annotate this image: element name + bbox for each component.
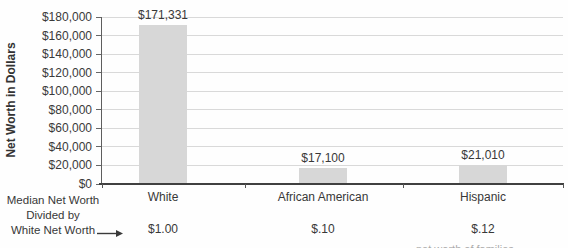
y-axis-tick-label: $80,000	[16, 103, 92, 117]
y-axis-tick-label: $160,000	[16, 29, 92, 43]
x-axis-tick	[563, 184, 564, 188]
bar-value-label: $21,010	[438, 148, 528, 162]
ratio-value: $.12	[438, 222, 528, 236]
x-axis-tick	[245, 184, 246, 188]
y-axis-line	[101, 17, 102, 184]
y-axis-tick-label: $20,000	[16, 158, 92, 172]
x-axis-baseline	[99, 183, 564, 185]
bar	[139, 25, 187, 184]
y-axis-tick-label: $180,000	[16, 10, 92, 24]
ratio-value: $.10	[278, 222, 368, 236]
category-label: White	[101, 190, 225, 204]
bar	[459, 165, 507, 184]
y-axis-tick-label: $120,000	[16, 66, 92, 80]
ratio-annotation-line1: Median Net Worth	[2, 193, 104, 208]
category-label: African American	[261, 190, 385, 204]
bar-value-label: $17,100	[278, 151, 368, 165]
y-axis-tick-label: $0	[16, 177, 92, 191]
x-axis-tick	[403, 184, 404, 188]
category-label: Hispanic	[421, 190, 545, 204]
y-axis-tick-label: $40,000	[16, 140, 92, 154]
x-axis-tick	[102, 184, 103, 188]
ratio-annotation-line3: White Net Worth	[2, 223, 104, 238]
y-axis-tick-label: $60,000	[16, 121, 92, 135]
bar-value-label: $171,331	[118, 8, 208, 22]
y-axis-tick-label: $100,000	[16, 84, 92, 98]
ratio-annotation: Median Net Worth Divided by White Net Wo…	[2, 193, 104, 238]
y-axis-tick-label: $140,000	[16, 47, 92, 61]
net-worth-bar-chart: Net Worth in Dollars Median Net Worth Di…	[0, 0, 568, 248]
ratio-value: $1.00	[118, 222, 208, 236]
cut-off-caption-fragment: net worth of families	[416, 243, 561, 248]
ratio-annotation-line2: Divided by	[2, 208, 104, 223]
